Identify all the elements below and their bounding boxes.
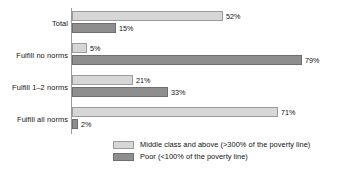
bar-value-label: 79% [305, 56, 319, 65]
bar-value-label: 5% [90, 44, 100, 53]
legend-swatch-icon [113, 153, 134, 161]
bar-group: Fulfill 1–2 norms 21% 33% [0, 74, 337, 100]
bar-poor [72, 119, 78, 129]
legend-label: Poor (<100% of the poverty line) [140, 152, 248, 161]
bar-middle-class [72, 75, 133, 85]
bar-value-label: 71% [281, 108, 295, 117]
category-label: Fulfill no norms [16, 51, 68, 60]
bar-middle-class [72, 43, 87, 53]
bar-poor [72, 87, 168, 97]
bar-value-label: 52% [226, 12, 240, 21]
bar-group: Fulfill all norms 71% 2% [0, 106, 337, 132]
bar-value-label: 33% [171, 88, 185, 97]
bar-value-label: 2% [81, 120, 91, 129]
category-label: Total [52, 19, 68, 28]
bar-chart: Total 52% 15% Fulfill no norms 5% 79% [0, 0, 337, 174]
bar-middle-class [72, 11, 223, 21]
legend-swatch-icon [113, 141, 134, 149]
category-label: Fulfill 1–2 norms [12, 83, 68, 92]
legend-item-poor: Poor (<100% of the poverty line) [113, 151, 337, 162]
chart-legend: Middle class and above (>300% of the pov… [113, 139, 337, 163]
category-label: Fulfill all norms [17, 115, 68, 124]
legend-item-middle-class: Middle class and above (>300% of the pov… [113, 139, 337, 150]
bar-middle-class [72, 107, 278, 117]
bar-poor [72, 55, 302, 65]
plot-area: Total 52% 15% Fulfill no norms 5% 79% [0, 0, 337, 136]
bar-group: Total 52% 15% [0, 10, 337, 36]
bar-group: Fulfill no norms 5% 79% [0, 42, 337, 68]
bar-poor [72, 23, 116, 33]
bar-value-label: 21% [136, 76, 150, 85]
legend-label: Middle class and above (>300% of the pov… [140, 140, 310, 149]
bar-value-label: 15% [119, 24, 133, 33]
